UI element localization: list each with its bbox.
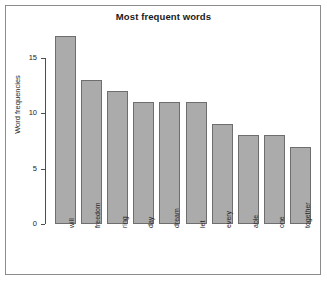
y-axis-label: Word frequencies [13,70,22,140]
y-axis-tick-label: 10 [9,108,37,117]
x-axis-label-day: day [147,217,154,228]
page-title: Most frequent words [0,11,327,22]
y-axis-tick-label: 0 [9,219,37,228]
plot-area [52,24,314,224]
x-axis-label-together: together [304,202,311,228]
bar-one [264,135,285,224]
y-axis-tick [41,58,45,59]
x-axis-label-will: will [68,218,75,228]
x-axis-label-ring: ring [121,216,128,228]
x-axis-label-one: one [278,216,285,228]
bar-will [55,36,76,224]
bar-ring [107,91,128,224]
y-axis-tick [41,113,45,114]
x-axis-label-let: let [199,221,206,228]
y-axis-tick [41,169,45,170]
y-axis-tick-label: 5 [9,164,37,173]
y-axis-tick-label: 15 [9,53,37,62]
x-axis-label-dream: dream [173,208,180,228]
chart-screenshot: Most frequent words Word frequencies 051… [0,0,327,281]
bar-able [238,135,259,224]
y-axis-line [45,58,46,224]
bar-dream [159,102,180,224]
y-axis-tick [41,224,45,225]
x-axis-label-every: every [225,211,232,228]
bar-day [133,102,154,224]
x-axis-label-freedom: freedom [94,202,101,228]
bar-every [212,124,233,224]
x-axis-label-able: able [252,215,259,228]
bar-let [186,102,207,224]
